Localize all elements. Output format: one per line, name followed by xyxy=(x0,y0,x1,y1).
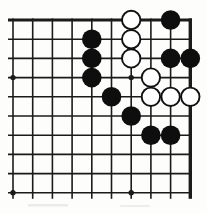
white-stone xyxy=(181,88,199,106)
star-point xyxy=(129,190,134,195)
black-stone xyxy=(82,49,102,69)
scan-artifact xyxy=(28,204,68,207)
go-board-diagram xyxy=(0,0,207,213)
white-stone xyxy=(142,68,160,86)
black-stone xyxy=(161,10,181,30)
go-board xyxy=(0,0,207,213)
black-stone xyxy=(141,125,161,145)
black-stone xyxy=(181,49,201,69)
black-stone xyxy=(82,68,102,88)
black-stone xyxy=(161,49,181,69)
star-point xyxy=(10,190,15,195)
white-stone xyxy=(142,88,160,106)
white-stone xyxy=(161,88,179,106)
black-stone xyxy=(161,125,181,145)
white-stone xyxy=(122,30,140,48)
white-stone xyxy=(122,49,140,67)
star-point xyxy=(129,75,134,80)
star-point xyxy=(10,75,15,80)
black-stone xyxy=(102,87,122,107)
black-stone xyxy=(82,29,102,49)
black-stone xyxy=(121,106,141,126)
paper-background xyxy=(0,0,207,213)
white-stone xyxy=(122,11,140,29)
scan-artifact xyxy=(120,205,150,207)
